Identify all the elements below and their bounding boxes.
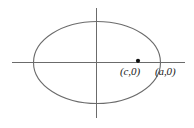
focus-point-label: (c,0) (120, 66, 140, 77)
focus-point-marker (136, 59, 140, 63)
vertex-point-label: (a,0) (155, 66, 176, 77)
ellipse-figure: (c,0) (a,0) (0, 0, 194, 128)
ellipse-diagram-canvas (0, 0, 194, 128)
